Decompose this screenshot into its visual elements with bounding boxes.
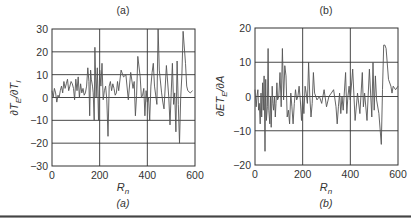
panel-b-data-line — [255, 45, 398, 151]
x-tick-label: 600 — [389, 168, 407, 180]
y-tick-label: 30 — [36, 23, 48, 35]
panel-b-y-axis-ticks: 20100−10−20 — [233, 22, 251, 171]
x-tick-label: 0 — [49, 169, 55, 181]
panel-a-x-axis-label: Rn — [117, 181, 130, 196]
panel-b-x-axis-ticks: 0200400600 — [252, 168, 407, 180]
panel-b-caption: (b) — [320, 197, 333, 209]
bottom-divider — [0, 215, 411, 218]
y-tick-label: −30 — [30, 160, 48, 172]
panel-b-title: (b) — [320, 4, 333, 16]
panel-a-data-line — [52, 29, 193, 143]
y-tick-label: 0 — [42, 92, 48, 104]
panel-a-x-axis-ticks: 0200400600 — [49, 169, 204, 181]
panel-b-chart: (b) 20100−10−20 0200400600 Rn (b) ∂ETE/∂… — [214, 4, 407, 209]
panel-a-caption: (a) — [117, 197, 130, 209]
y-tick-label: −10 — [233, 125, 251, 137]
x-tick-label: 600 — [186, 169, 204, 181]
x-tick-label: 0 — [252, 168, 258, 180]
y-tick-label: 0 — [245, 91, 251, 103]
y-tick-label: −10 — [30, 114, 48, 126]
y-tick-label: 20 — [239, 22, 251, 34]
y-tick-label: −20 — [233, 159, 251, 171]
panel-a-y-axis-ticks: 3020100−10−20−30 — [30, 23, 48, 172]
panel-a-title: (a) — [117, 4, 130, 16]
figure: (a) 3020100−10−20−30 0200400600 Rn (a) ∂… — [0, 0, 411, 219]
x-tick-label: 200 — [91, 169, 109, 181]
y-tick-label: −20 — [30, 137, 48, 149]
panel-a-chart: (a) 3020100−10−20−30 0200400600 Rn (a) ∂… — [8, 4, 204, 209]
y-tick-label: 20 — [36, 46, 48, 58]
y-tick-label: 10 — [239, 56, 251, 68]
x-tick-label: 200 — [294, 168, 312, 180]
x-tick-label: 400 — [139, 169, 157, 181]
panel-b-y-axis-label: ∂ETE/∂A — [214, 76, 229, 117]
x-tick-label: 400 — [342, 168, 360, 180]
panel-a-y-axis-label: ∂TE/∂TI — [8, 80, 23, 116]
panel-b-x-axis-label: Rn — [320, 181, 333, 196]
y-tick-label: 10 — [36, 69, 48, 81]
